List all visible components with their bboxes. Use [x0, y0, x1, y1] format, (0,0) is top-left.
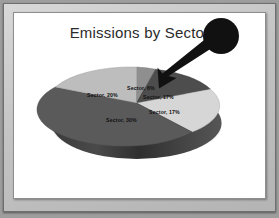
pie-label-20: Sector, 20%	[87, 92, 118, 98]
pie-graphic[interactable]: Sector, 20% Sector, 6% Sector, 17% Secto…	[51, 67, 221, 171]
pie-label-30: Sector, 30%	[106, 117, 137, 123]
pie-label-17b: Sector, 17%	[149, 109, 180, 115]
pie-label-6: Sector, 6%	[127, 85, 155, 91]
slide-screenshot: Emissions by Sector	[0, 0, 279, 218]
pie-top-face	[51, 67, 221, 139]
page-title: Emissions by Sector	[14, 24, 265, 41]
slide-canvas[interactable]: Emissions by Sector	[13, 12, 266, 199]
pie-slices	[36, 67, 219, 146]
pie-label-17a: Sector, 17%	[143, 94, 174, 100]
slide-frame: Emissions by Sector	[3, 3, 276, 212]
pie-chart[interactable]: Sector, 20% Sector, 6% Sector, 17% Secto…	[14, 53, 265, 198]
